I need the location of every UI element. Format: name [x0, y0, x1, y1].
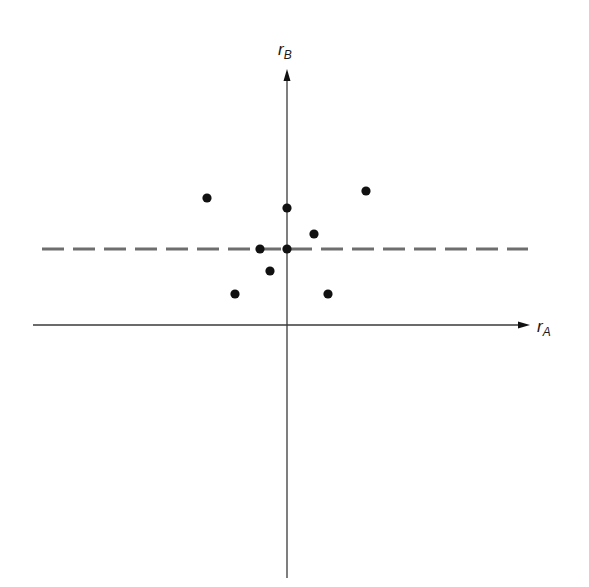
- y-axis-arrow-icon: [284, 69, 291, 81]
- data-point: [255, 244, 264, 253]
- x-axis-arrow-icon: [518, 322, 530, 329]
- data-point: [309, 229, 318, 238]
- data-point: [230, 289, 239, 298]
- data-point: [323, 289, 332, 298]
- data-point: [265, 266, 274, 275]
- scatter-plot: [0, 0, 589, 587]
- data-point: [361, 186, 370, 195]
- data-point: [282, 203, 291, 212]
- data-point: [282, 244, 291, 253]
- y-axis-label: rB: [278, 40, 292, 62]
- x-axis-label: rA: [537, 317, 551, 339]
- data-point: [202, 193, 211, 202]
- axes: [33, 69, 530, 578]
